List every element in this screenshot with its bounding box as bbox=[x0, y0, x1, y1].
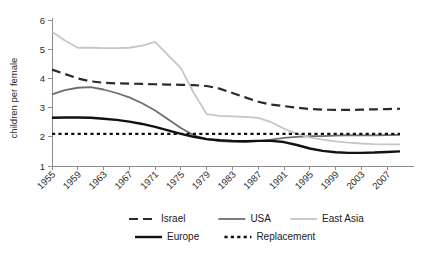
y-tick-label: 2 bbox=[40, 131, 45, 142]
y-tick-label: 1 bbox=[40, 161, 45, 172]
x-tick-label: 1971 bbox=[138, 169, 161, 192]
x-tick-label: 1963 bbox=[86, 169, 109, 192]
x-tick-label: 1959 bbox=[60, 169, 83, 192]
x-tick-label: 1999 bbox=[318, 169, 341, 192]
y-tick-label: 3 bbox=[40, 102, 45, 113]
y-tick-group: 123456 bbox=[40, 15, 52, 172]
x-tick-label: 1967 bbox=[112, 169, 135, 192]
y-tick-label: 5 bbox=[40, 44, 45, 55]
fertility-rate-chart: 123456 children per female 1955195919631… bbox=[0, 0, 433, 255]
legend-label-replacement: Replacement bbox=[256, 231, 315, 242]
x-tick-group: 1955195919631967197119751979198319871991… bbox=[35, 166, 393, 191]
x-tick-label: 1955 bbox=[35, 169, 58, 192]
legend-label-europe: Europe bbox=[167, 231, 200, 242]
legend-label-east-asia: East Asia bbox=[322, 213, 364, 224]
chart-legend: IsraelUSAEast AsiaEuropeReplacement bbox=[129, 213, 364, 242]
x-tick-label: 1987 bbox=[241, 169, 264, 192]
series-group bbox=[52, 32, 400, 153]
series-line-east-asia bbox=[52, 32, 400, 145]
y-tick-label: 6 bbox=[40, 15, 45, 26]
x-tick-label: 1983 bbox=[215, 169, 238, 192]
x-tick-label: 2003 bbox=[344, 169, 367, 192]
legend-label-usa: USA bbox=[250, 213, 271, 224]
x-tick-label: 1979 bbox=[189, 169, 212, 192]
x-tick-label: 1995 bbox=[292, 169, 315, 192]
chart-svg: 123456 children per female 1955195919631… bbox=[0, 0, 433, 255]
x-tick-label: 2007 bbox=[370, 169, 393, 192]
x-tick-label: 1975 bbox=[164, 169, 187, 192]
y-axis-title: children per female bbox=[8, 58, 19, 139]
x-axis-group: 1955195919631967197119751979198319871991… bbox=[35, 166, 414, 191]
y-tick-label: 4 bbox=[40, 73, 45, 84]
x-tick-label: 1991 bbox=[267, 169, 290, 192]
legend-label-israel: Israel bbox=[161, 213, 185, 224]
y-axis-group: 123456 children per female bbox=[8, 15, 52, 172]
